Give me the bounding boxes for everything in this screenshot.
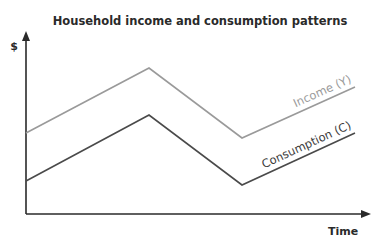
consumption-label: Consumption (C) — [259, 118, 353, 171]
y-axis-arrow-icon — [22, 31, 30, 41]
x-axis-label: Time — [328, 225, 358, 238]
chart-title: Household income and consumption pattern… — [53, 14, 348, 28]
income-label: Income (Y) — [291, 72, 353, 110]
x-axis: Time — [26, 210, 371, 238]
y-axis: $ — [10, 31, 30, 214]
y-axis-label: $ — [10, 40, 18, 53]
x-axis-arrow-icon — [361, 210, 371, 218]
chart-canvas: Household income and consumption pattern… — [0, 0, 381, 249]
